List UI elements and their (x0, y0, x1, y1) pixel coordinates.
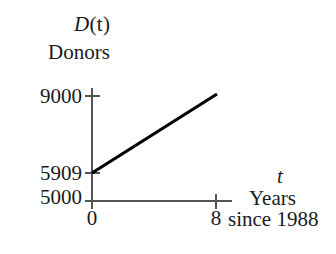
function-title: D(t) (74, 14, 110, 35)
x-axis-title-line-2: since 1988 (228, 209, 318, 230)
data-line-series-dt (92, 94, 217, 173)
x-axis-title-line-1: Years (249, 188, 296, 209)
y-tick-label-5000: 5000 (14, 187, 82, 208)
function-name: D (74, 12, 89, 36)
x-axis-variable: t (277, 166, 283, 187)
function-argument: (t) (89, 12, 110, 36)
x-tick-label-8: 8 (201, 208, 231, 229)
y-tick-label-9000: 9000 (14, 86, 82, 107)
y-axis-title: Donors (48, 42, 110, 63)
donors-line-chart: D(t) Donors 9000 5909 5000 0 8 t Years s… (0, 0, 336, 254)
x-tick-label-0: 0 (77, 208, 107, 229)
y-tick-label-5909: 5909 (14, 163, 82, 184)
